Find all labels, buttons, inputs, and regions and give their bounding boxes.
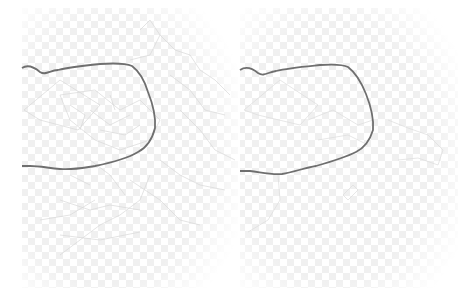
checker-extent bbox=[0, 0, 238, 303]
map-panel-left bbox=[0, 0, 238, 303]
map-canvas-left bbox=[0, 0, 238, 303]
map-panel-right bbox=[238, 0, 476, 303]
map-canvas-right bbox=[238, 0, 476, 303]
